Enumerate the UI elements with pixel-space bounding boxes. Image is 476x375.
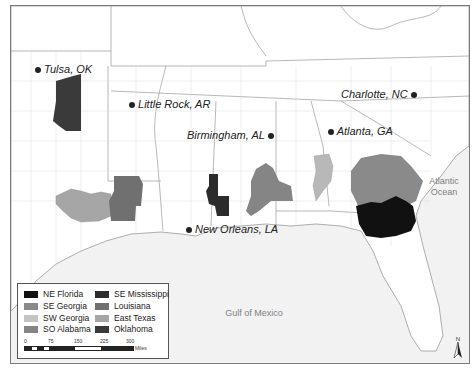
swatch-icon xyxy=(95,303,109,310)
legend-item-se-mississippi: SE Mississippi xyxy=(95,289,169,299)
city-dot-icon xyxy=(268,133,274,139)
legend-item-so-alabama: SO Alabama xyxy=(24,324,91,334)
city-label: New Orleans, LA xyxy=(195,223,278,235)
legend-item-east-texas: East Texas xyxy=(95,313,155,323)
label-atlantic-ocean: AtlanticOcean xyxy=(421,176,467,198)
swatch-icon xyxy=(95,315,109,322)
swatch-icon xyxy=(24,326,38,333)
city-little-rock: Little Rock, AR xyxy=(129,98,210,110)
legend-item-ne-florida: NE Florida xyxy=(24,289,83,299)
legend-item-louisiana: Louisiana xyxy=(95,301,150,311)
swatch-icon xyxy=(24,291,38,298)
city-dot-icon xyxy=(411,92,417,98)
city-label: Charlotte, NC xyxy=(341,88,408,100)
city-label: Little Rock, AR xyxy=(138,98,210,110)
city-tulsa: Tulsa, OK xyxy=(35,63,92,75)
city-charlotte: Charlotte, NC xyxy=(341,88,417,100)
map-frame: Tulsa, OK Little Rock, AR Birmingham, AL… xyxy=(10,5,470,364)
city-dot-icon xyxy=(129,102,135,108)
scale-bar: 0 75 150 225 300 Miles xyxy=(24,338,142,352)
swatch-icon xyxy=(95,326,109,333)
legend-item-sw-georgia: SW Georgia xyxy=(24,313,89,323)
swatch-icon xyxy=(24,303,38,310)
city-label: Tulsa, OK xyxy=(44,63,92,75)
city-label: Atlanta, GA xyxy=(337,125,393,137)
city-atlanta: Atlanta, GA xyxy=(328,125,393,137)
legend-item-se-georgia: SE Georgia xyxy=(24,301,87,311)
legend: NE Florida SE Mississippi SE Georgia Lou… xyxy=(17,283,169,359)
legend-item-oklahoma: Oklahoma xyxy=(95,324,153,334)
north-arrow-icon xyxy=(453,342,463,358)
city-birmingham: Birmingham, AL xyxy=(187,129,274,141)
city-dot-icon xyxy=(328,129,334,135)
city-new-orleans: New Orleans, LA xyxy=(186,223,278,235)
north-arrow: N xyxy=(453,336,463,359)
swatch-icon xyxy=(95,291,109,298)
city-dot-icon xyxy=(186,227,192,233)
city-label: Birmingham, AL xyxy=(187,129,265,141)
label-gulf-of-mexico: Gulf of Mexico xyxy=(219,308,289,319)
swatch-icon xyxy=(24,315,38,322)
scale-bar-graphic xyxy=(24,346,134,351)
city-dot-icon xyxy=(35,67,41,73)
